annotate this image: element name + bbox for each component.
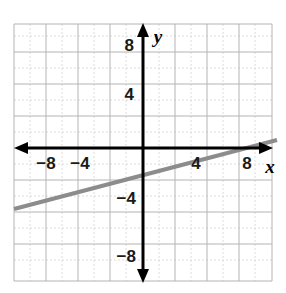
- x-tick-label-neg4: −4: [70, 154, 90, 173]
- x-tick-label-pos8: 8: [242, 154, 251, 173]
- y-tick-label-pos4: 4: [125, 85, 135, 104]
- x-axis-name-label: x: [264, 156, 275, 177]
- graph-canvas: −8 −4 4 8 8 4 −4 −8 y x: [0, 0, 286, 293]
- x-tick-label-pos4: 4: [191, 154, 201, 173]
- x-tick-label-neg8: −8: [36, 154, 55, 173]
- y-tick-label-pos8: 8: [125, 36, 134, 55]
- y-axis-name-label: y: [152, 26, 163, 47]
- y-tick-label-neg4: −4: [117, 189, 137, 208]
- y-tick-label-neg8: −8: [117, 247, 136, 266]
- coordinate-plane-figure: −8 −4 4 8 8 4 −4 −8 y x: [0, 0, 286, 293]
